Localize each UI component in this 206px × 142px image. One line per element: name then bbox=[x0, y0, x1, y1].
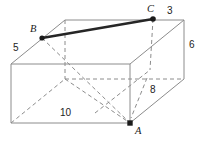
dimension-label-10: 10 bbox=[60, 108, 71, 118]
vertex-dot-b bbox=[39, 35, 44, 40]
dimension-label-3: 3 bbox=[167, 6, 173, 16]
vertex-dot-a bbox=[127, 120, 132, 125]
dimension-label-5: 5 bbox=[13, 43, 19, 53]
vertex-dot-c bbox=[150, 16, 156, 22]
dimension-label-8: 8 bbox=[150, 85, 156, 95]
vertex-label-c: C bbox=[147, 4, 154, 15]
figure-container: B C A 5 3 6 8 10 bbox=[0, 0, 206, 142]
edge-top-left-slant bbox=[11, 20, 65, 64]
vertex-label-a: A bbox=[135, 126, 141, 137]
hidden-edge-bottom-left-depth bbox=[11, 79, 65, 123]
segment-bc-highlight bbox=[42, 19, 153, 38]
edge-top-right-slant bbox=[130, 20, 184, 64]
vertex-label-b: B bbox=[30, 24, 36, 35]
hidden-edge-c-vertical-lower bbox=[131, 78, 147, 118]
prism-diagram bbox=[0, 0, 206, 142]
hidden-edges-group bbox=[11, 20, 184, 123]
hidden-edge-c-vertical bbox=[150, 19, 153, 70]
diagonal-b-to-a bbox=[42, 38, 130, 123]
diagonal-backbottomleft-to-a bbox=[65, 79, 130, 123]
visible-edges-group bbox=[11, 20, 184, 123]
dimension-label-6: 6 bbox=[189, 40, 195, 50]
